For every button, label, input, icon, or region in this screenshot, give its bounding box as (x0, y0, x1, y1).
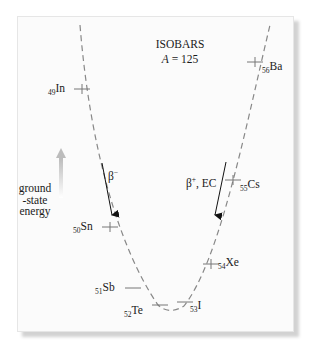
nuclide-label-i: 53I (190, 300, 201, 314)
nuclide-label-te: 52Te (124, 305, 143, 319)
energy-arrow-icon (56, 148, 66, 198)
nuclide-label-ba: 56Ba (262, 61, 282, 75)
beta-plus-ec-label: β+, EC (186, 175, 217, 189)
mass-number-label: A = 125 (150, 52, 210, 67)
nuclide-label-xe: 54Xe (218, 257, 239, 271)
energy-axis-label: ground -state energy (17, 183, 53, 218)
beta-minus-label: β− (108, 168, 118, 182)
nuclide-label-cs: 55Cs (240, 179, 260, 193)
nuclide-label-sn: 50Sn (73, 221, 93, 235)
nuclide-label-sb: 51Sb (95, 282, 115, 296)
title-text: ISOBARS (150, 37, 210, 52)
nuclide-label-in: 49In (48, 83, 65, 97)
diagram-title: ISOBARS A = 125 (150, 37, 210, 67)
